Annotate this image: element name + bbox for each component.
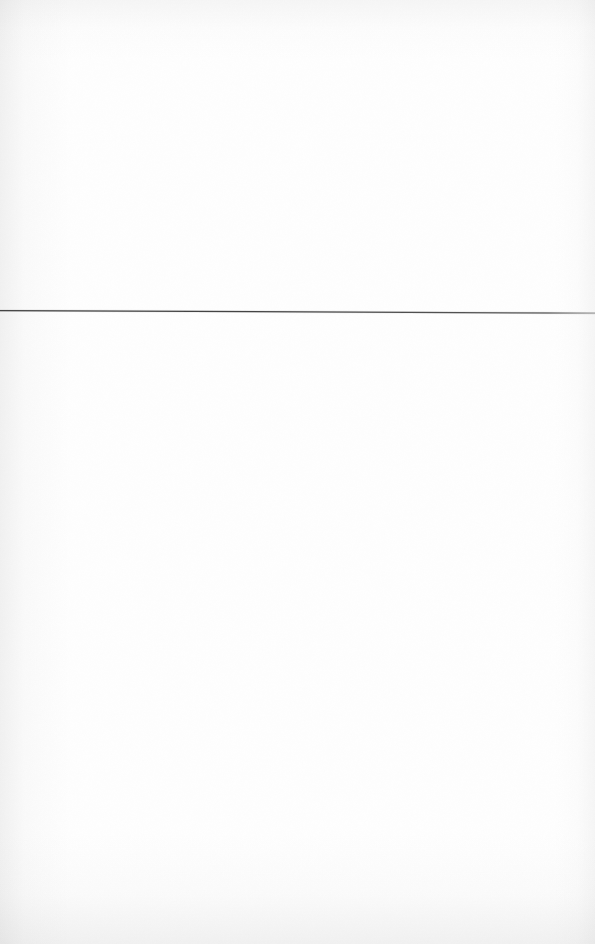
scanned-page <box>0 0 595 944</box>
paper-background <box>0 0 595 944</box>
